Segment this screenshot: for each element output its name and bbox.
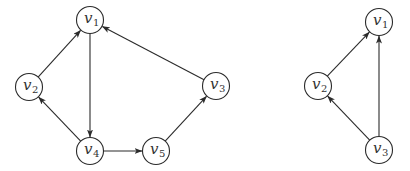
node-label-base: v xyxy=(373,139,382,157)
node-label-subscript: 2 xyxy=(321,83,327,94)
node-label-base: v xyxy=(150,140,159,158)
node-label-subscript: 1 xyxy=(382,19,388,30)
node-label-base: v xyxy=(84,140,93,158)
node-label-subscript: 4 xyxy=(93,148,99,159)
node-label-subscript: 1 xyxy=(93,17,99,28)
left-graph-edges xyxy=(38,27,206,152)
node-label-base: v xyxy=(373,11,382,29)
node-v1: v1 xyxy=(77,7,104,34)
node-label-subscript: 3 xyxy=(219,83,225,94)
node-v4: v4 xyxy=(77,138,104,165)
left-graph-nodes: v1v2v3v4v5 xyxy=(16,7,230,165)
edge-v2-to-v1 xyxy=(38,30,80,77)
edge-v4-to-v2 xyxy=(39,97,81,141)
right-graph-edges xyxy=(327,32,379,140)
node-v3: v3 xyxy=(366,137,393,164)
node-label-subscript: 5 xyxy=(159,148,165,159)
edge-v2-to-v1 xyxy=(327,32,369,76)
edge-v3-to-v1 xyxy=(102,27,204,80)
node-v3: v3 xyxy=(203,73,230,100)
nodes-layer: v1v2v3v4v5v1v2v3 xyxy=(16,7,393,165)
node-v2: v2 xyxy=(16,74,43,101)
node-label-base: v xyxy=(84,9,93,27)
node-label-subscript: 3 xyxy=(382,147,388,158)
node-label-base: v xyxy=(210,75,219,93)
node-v5: v5 xyxy=(143,138,170,165)
node-v1: v1 xyxy=(366,9,393,36)
edge-v3-to-v2 xyxy=(328,96,370,140)
node-label-base: v xyxy=(312,75,321,93)
directed-graphs-diagram: v1v2v3v4v5v1v2v3 xyxy=(0,0,410,171)
node-v2: v2 xyxy=(305,73,332,100)
node-label-base: v xyxy=(23,76,32,94)
node-label-subscript: 2 xyxy=(32,84,38,95)
edge-v5-to-v3 xyxy=(165,96,206,141)
